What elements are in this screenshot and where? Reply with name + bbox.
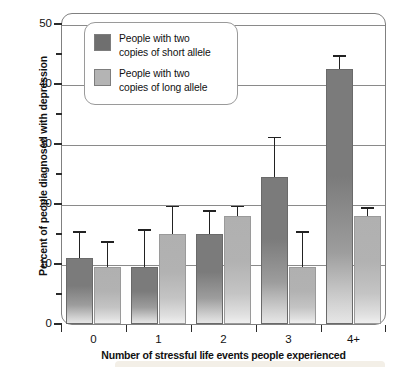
error-bar-cap-short-cat-3 xyxy=(268,137,281,139)
error-bar-stem-short-cat-1 xyxy=(144,229,146,267)
bar-short-allele-cat-2 xyxy=(196,234,223,324)
error-bar-cap-short-cat-0 xyxy=(73,231,86,233)
bar-long-allele-cat-0 xyxy=(94,267,121,324)
x-axis-title: Number of stressful life events people e… xyxy=(61,349,386,361)
y-tick-50 xyxy=(54,23,62,24)
bar-long-allele-cat-1 xyxy=(159,234,186,324)
y-tick-label-20: 20 xyxy=(12,197,52,209)
error-bar-stem-short-cat-0 xyxy=(79,231,81,258)
y-tick-label-10: 10 xyxy=(12,257,52,269)
error-bar-cap-long-cat-2 xyxy=(231,206,244,208)
y-tick-label-0: 0 xyxy=(12,317,52,329)
y-tick-30 xyxy=(54,143,62,144)
y-minor-tick-35 xyxy=(56,113,62,114)
bar-long-allele-cat-2 xyxy=(224,216,251,324)
y-tick-20 xyxy=(54,203,62,204)
error-bar-stem-short-cat-3 xyxy=(274,137,276,177)
x-tick-2 xyxy=(191,325,192,332)
bar-long-allele-cat-4+ xyxy=(354,216,381,324)
x-tick-label-1: 1 xyxy=(139,333,179,345)
x-tick-1 xyxy=(126,325,127,332)
x-tick-0 xyxy=(61,325,62,332)
legend-label-long-allele: People with two copies of long allele xyxy=(119,67,207,94)
x-tick-label-2: 2 xyxy=(204,333,244,345)
y-tick-label-30: 30 xyxy=(12,137,52,149)
legend: People with two copies of short allele P… xyxy=(84,22,238,105)
legend-label-short-allele: People with two copies of short allele xyxy=(119,32,211,59)
x-tick-label-4+: 4+ xyxy=(334,333,374,345)
y-axis-title: Percent of people diagnosed with depress… xyxy=(37,16,49,316)
legend-swatch-short-allele xyxy=(94,34,111,51)
error-bar-cap-short-cat-2 xyxy=(203,210,216,212)
x-tick-5 xyxy=(385,325,386,332)
x-tick-3 xyxy=(256,325,257,332)
y-minor-tick-45 xyxy=(56,53,62,54)
bar-short-allele-cat-0 xyxy=(66,258,93,324)
y-minor-tick-5 xyxy=(56,293,62,294)
error-bar-stem-short-cat-4+ xyxy=(339,55,341,69)
y-tick-40 xyxy=(54,83,62,84)
error-bar-stem-long-cat-1 xyxy=(172,206,174,234)
error-bar-cap-short-cat-4+ xyxy=(333,55,346,57)
bar-short-allele-cat-4+ xyxy=(326,69,353,324)
error-bar-stem-long-cat-3 xyxy=(302,231,304,267)
bar-long-allele-cat-3 xyxy=(289,267,316,324)
x-tick-label-0: 0 xyxy=(74,333,114,345)
legend-swatch-long-allele xyxy=(94,69,111,86)
error-bar-stem-long-cat-0 xyxy=(107,241,109,267)
error-bar-stem-short-cat-2 xyxy=(209,210,211,234)
caption-strip xyxy=(115,361,385,367)
legend-entry-short-allele: People with two copies of short allele xyxy=(94,32,211,59)
bar-short-allele-cat-3 xyxy=(261,177,288,324)
depression-allele-bar-chart: Percent of people diagnosed with depress… xyxy=(0,0,401,367)
error-bar-cap-long-cat-4+ xyxy=(361,207,374,209)
y-tick-label-40: 40 xyxy=(12,77,52,89)
error-bar-cap-long-cat-3 xyxy=(296,231,309,233)
y-minor-tick-15 xyxy=(56,233,62,234)
x-tick-4 xyxy=(321,325,322,332)
bar-short-allele-cat-1 xyxy=(131,267,158,324)
error-bar-cap-long-cat-0 xyxy=(101,241,114,243)
y-minor-tick-25 xyxy=(56,173,62,174)
y-tick-label-50: 50 xyxy=(12,17,52,29)
error-bar-cap-long-cat-1 xyxy=(166,206,179,208)
error-bar-cap-short-cat-1 xyxy=(138,229,151,231)
legend-entry-long-allele: People with two copies of long allele xyxy=(94,67,207,94)
y-tick-10 xyxy=(54,263,62,264)
x-tick-label-3: 3 xyxy=(269,333,309,345)
